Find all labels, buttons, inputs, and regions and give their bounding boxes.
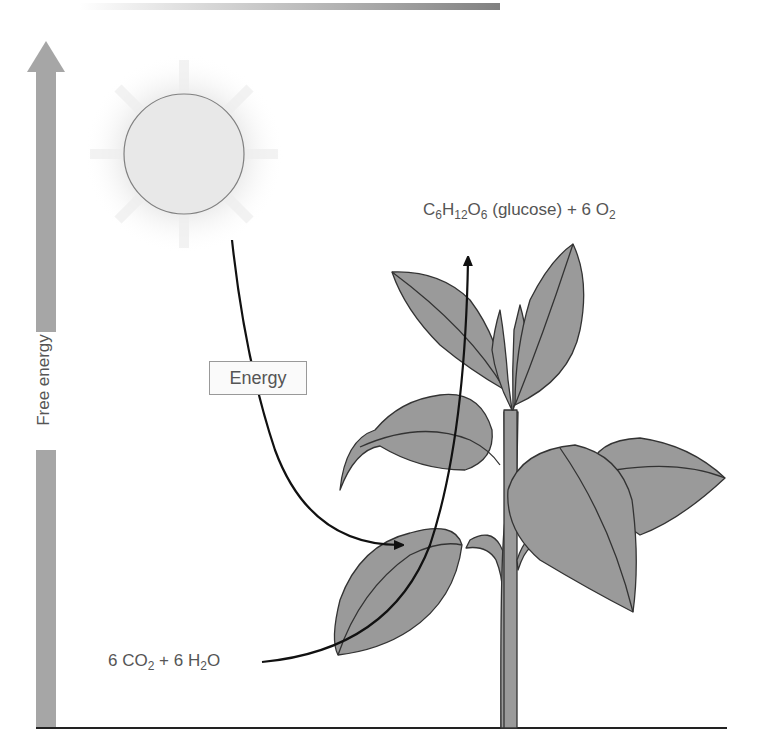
photosynthesis-illustration	[0, 0, 760, 748]
sun-icon	[84, 54, 284, 254]
free-energy-axis-label: Free energy	[34, 334, 54, 426]
products-label: C6H12O6 (glucose) + 6 O2	[423, 200, 616, 220]
energy-label: Energy	[229, 368, 286, 389]
energy-label-box: Energy	[209, 361, 307, 395]
plant-illustration	[334, 244, 725, 728]
reactants-label: 6 CO2 + 6 H2O	[108, 651, 220, 671]
